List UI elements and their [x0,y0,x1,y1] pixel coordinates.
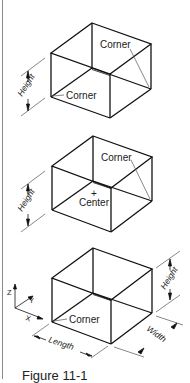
box-1-corner-top-label: Corner [100,39,131,50]
z-axis-label: Z [7,288,12,297]
box-3-width-label: Width [145,323,169,344]
box-3 [52,248,152,344]
box-3-length-label: Length [47,334,75,352]
x-axis-label: X [24,313,32,323]
box-2 [52,136,152,232]
box-3-corner-label: Corner [69,314,100,325]
box-1-corner-bottom-label: Corner [66,90,97,101]
box-2-leaders [21,160,150,232]
y-axis-label: Y [29,296,34,305]
box-1 [51,23,151,118]
box-2-corner-label: Corner [101,152,132,163]
box-2-center-label: Center [79,197,110,208]
box-2-height-label: Height [15,186,37,213]
box-3-height-label: Height [158,264,180,291]
figure-caption: Figure 11-1 [22,368,88,383]
box-1-height-label: Height [15,71,37,98]
